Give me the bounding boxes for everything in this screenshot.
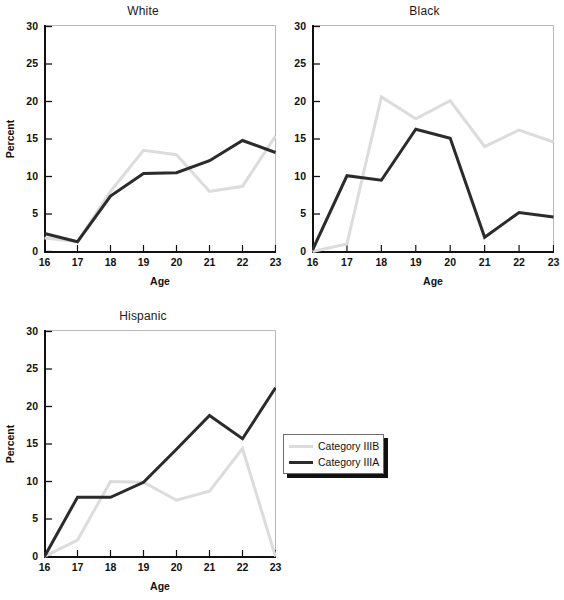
chart-panel-hispanic: Hispanic Percent Age 0510152025301617181… [0, 305, 286, 600]
legend-label-category-iiib: Category IIIB [318, 441, 379, 452]
y-tick-label: 15 [278, 132, 306, 144]
chart-legend: Category IIIB Category IIIA [283, 434, 384, 474]
x-tick-label: 23 [262, 256, 290, 268]
x-tick-label: 20 [163, 561, 191, 573]
x-tick-label: 18 [97, 256, 125, 268]
plot-svg-white [44, 25, 276, 253]
y-tick-label: 5 [10, 207, 38, 219]
x-tick-label: 17 [333, 256, 361, 268]
x-tick-label: 21 [196, 561, 224, 573]
x-tick-label: 19 [402, 256, 430, 268]
y-tick-label: 15 [10, 437, 38, 449]
x-tick-label: 17 [64, 561, 92, 573]
y-tick-label: 25 [10, 362, 38, 374]
y-tick-label: 20 [10, 95, 38, 107]
x-tick-label: 20 [436, 256, 464, 268]
x-tick-label: 22 [229, 561, 257, 573]
x-axis-label-black: Age [312, 275, 554, 287]
y-tick-label: 0 [10, 245, 38, 257]
x-tick-label: 23 [540, 256, 564, 268]
y-tick-label: 0 [278, 245, 306, 257]
x-tick-label: 17 [64, 256, 92, 268]
y-tick-label: 25 [10, 57, 38, 69]
x-tick-label: 22 [505, 256, 533, 268]
y-tick-label: 0 [10, 550, 38, 562]
legend-entry-category-iiib: Category IIIB [289, 438, 379, 454]
x-tick-label: 16 [31, 256, 59, 268]
y-tick-label: 20 [278, 95, 306, 107]
x-tick-label: 22 [229, 256, 257, 268]
chart-title-black: Black [290, 4, 559, 18]
plot-svg-black [312, 25, 554, 253]
y-tick-label: 20 [10, 400, 38, 412]
y-tick-label: 10 [10, 170, 38, 182]
y-tick-label: 30 [10, 325, 38, 337]
chart-panel-black: Black Age 0510152025301617181920212223 [290, 0, 559, 296]
legend-label-category-iiia: Category IIIA [318, 457, 379, 468]
y-tick-label: 30 [10, 20, 38, 32]
x-tick-label: 16 [299, 256, 327, 268]
x-tick-label: 19 [130, 256, 158, 268]
plot-svg-hispanic [44, 330, 276, 558]
y-tick-label: 5 [278, 207, 306, 219]
plot-area-white [44, 25, 276, 253]
y-tick-label: 5 [10, 512, 38, 524]
x-tick-label: 21 [196, 256, 224, 268]
y-tick-label: 15 [10, 132, 38, 144]
y-tick-label: 10 [278, 170, 306, 182]
plot-area-black [312, 25, 554, 253]
x-tick-label: 21 [471, 256, 499, 268]
legend-swatch-category-iiib [289, 445, 313, 448]
y-tick-label: 10 [10, 475, 38, 487]
legend-entry-category-iiia: Category IIIA [289, 454, 379, 470]
legend-swatch-category-iiia [289, 461, 313, 464]
y-tick-label: 25 [278, 57, 306, 69]
chart-title-hispanic: Hispanic [0, 309, 286, 323]
y-tick-label: 30 [278, 20, 306, 32]
x-tick-label: 20 [163, 256, 191, 268]
x-tick-label: 19 [130, 561, 158, 573]
x-axis-label-hispanic: Age [44, 580, 276, 592]
x-tick-label: 16 [31, 561, 59, 573]
x-tick-label: 18 [97, 561, 125, 573]
x-tick-label: 23 [262, 561, 290, 573]
chart-title-white: White [0, 4, 286, 18]
x-tick-label: 18 [367, 256, 395, 268]
chart-panel-white: White Percent Age 0510152025301617181920… [0, 0, 286, 296]
plot-area-hispanic [44, 330, 276, 558]
x-axis-label-white: Age [44, 275, 276, 287]
